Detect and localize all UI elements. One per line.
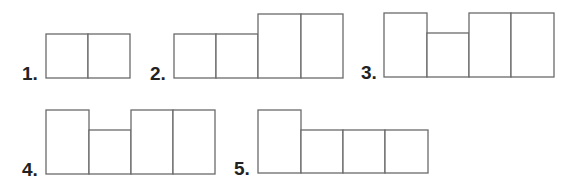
figure-label-1: 1.	[22, 64, 38, 83]
figure-5-box-1	[258, 110, 301, 173]
figure-2-box-4	[301, 14, 343, 78]
figure-5-box-4	[385, 130, 428, 173]
figure-3-box-3	[469, 13, 511, 77]
figure-4-box-3	[131, 110, 173, 174]
figure-3-box-4	[511, 13, 554, 77]
figure-5-box-3	[343, 130, 385, 173]
figure-5	[258, 110, 428, 173]
figure-4-box-1	[46, 110, 89, 174]
figure-1-box-1	[46, 34, 88, 78]
figure-label-3: 3.	[361, 63, 377, 82]
figure-3	[384, 13, 554, 77]
figure-3-box-2	[427, 33, 469, 77]
figure-1-box-2	[88, 34, 130, 78]
figure-5-box-2	[301, 130, 343, 173]
figure-label-5: 5.	[234, 159, 250, 178]
figure-1	[46, 34, 130, 78]
figure-2-box-1	[174, 34, 216, 78]
figure-2-box-3	[258, 14, 301, 78]
figure-4-box-2	[89, 130, 131, 174]
figure-2-box-2	[216, 34, 258, 78]
figure-3-box-1	[384, 13, 427, 77]
figure-label-4: 4.	[22, 160, 38, 179]
figure-2	[174, 14, 343, 78]
figure-4	[46, 110, 215, 174]
figure-4-box-4	[173, 110, 215, 174]
figures-canvas	[0, 0, 573, 183]
figure-label-2: 2.	[150, 64, 166, 83]
